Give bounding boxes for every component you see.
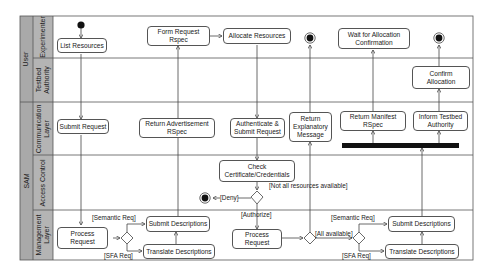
group-label-user: User	[20, 16, 33, 102]
lane-label-access-control: Access Control	[33, 155, 53, 210]
decision-node	[251, 191, 263, 204]
decision-node	[121, 232, 133, 244]
action-confirm-allocation: Confirm Allocation	[412, 66, 470, 89]
action-submit-descriptions-2: Submit Descriptions	[388, 216, 455, 232]
fork-bar	[342, 143, 459, 148]
action-submit-request: Submit Request	[57, 119, 109, 134]
action-return-manifest-rspec: Return Manifest RSpec	[340, 111, 406, 131]
lane-label-experimenter: Experimenter	[33, 16, 53, 58]
action-allocate-resources: Allocate Resources	[223, 28, 291, 44]
guard-sfa-req-2: [SFA Req]	[342, 252, 371, 260]
action-process-request-1: Process Request	[57, 227, 108, 249]
action-return-advertisement-rspec: Return Advertisement RSpec	[139, 118, 215, 138]
guard-semantic-req-2: [Semantic Req]	[331, 214, 375, 222]
action-translate-descriptions-1: Translate Descriptions	[143, 244, 215, 259]
decision-node	[353, 232, 365, 244]
action-process-request-2: Process Request	[232, 229, 282, 249]
action-translate-descriptions-2: Translate Descriptions	[385, 244, 459, 259]
action-list-resources: List Resources	[57, 38, 107, 53]
guard-deny: [Deny]	[220, 194, 238, 202]
action-authenticate-submit-request: Authenticate & Submit Request	[230, 118, 285, 138]
lane-label-communication-layer: Communication Layer	[33, 102, 53, 155]
action-return-explanatory-message: Return Explanatory Message	[289, 112, 332, 142]
action-wait-for-allocation: Wait for Allocation Confirmation	[338, 28, 410, 49]
guard-authorize: [Authorize]	[241, 211, 272, 219]
initial-node	[77, 21, 84, 28]
action-check-certificate-credentials: Check Certificate/Credentials	[219, 160, 295, 182]
group-label-sam: SAM	[20, 102, 33, 260]
guard-semantic-req-1: [Semantic Req]	[92, 214, 136, 222]
action-inform-testbed-authority: Inform Testbed Authority	[413, 111, 468, 131]
action-form-request-rspec: Form Request Rspec	[147, 26, 210, 46]
guard-all-available: [All available]	[315, 230, 353, 238]
guard-not-all-available: [Not all resources available]	[269, 182, 348, 190]
lane-label-management-layer: Management Layer	[33, 210, 53, 260]
action-submit-descriptions-1: Submit Descriptions	[146, 216, 210, 232]
activity-diagram: User SAM Experimenter Testbed Authority …	[0, 0, 493, 276]
lane-label-testbed-authority: Testbed Authority	[33, 58, 53, 102]
guard-sfa-req-1: [SFA Req]	[104, 252, 133, 260]
